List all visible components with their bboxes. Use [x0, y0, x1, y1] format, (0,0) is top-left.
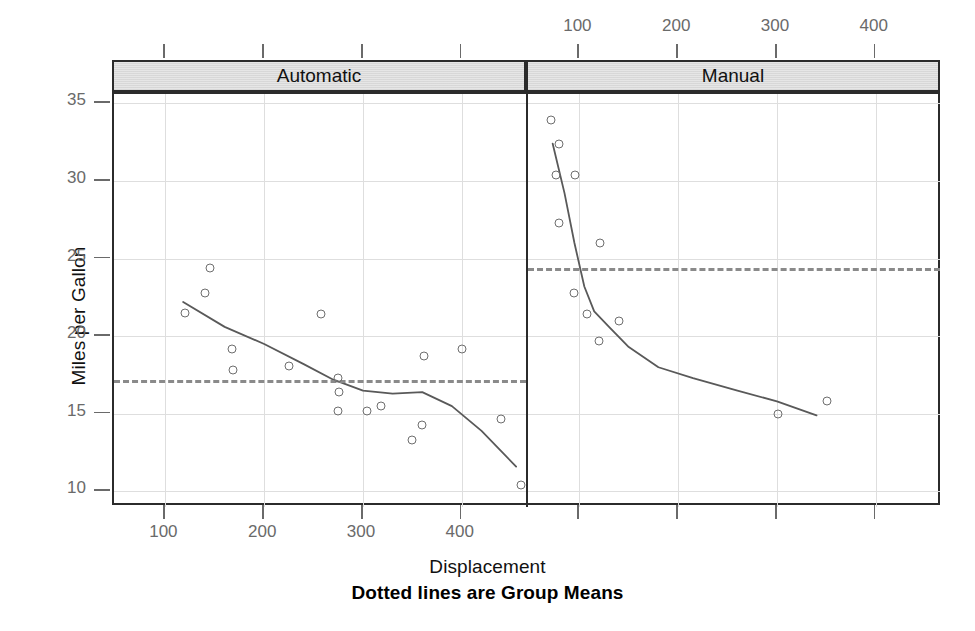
group-mean-line: [114, 380, 526, 383]
x-tick-mark: [775, 44, 777, 58]
x-tick-label: 400: [430, 522, 490, 542]
y-tick-mark: [94, 257, 110, 259]
data-point: [362, 406, 371, 415]
data-point: [571, 170, 580, 179]
x-tick-mark-unlabeled: [163, 44, 165, 58]
data-point: [583, 310, 592, 319]
x-tick-mark: [676, 44, 678, 58]
data-point: [376, 402, 385, 411]
data-point: [546, 116, 555, 125]
y-tick-label: 25: [46, 246, 86, 266]
x-tick-label: 100: [547, 16, 607, 36]
data-point: [773, 409, 782, 418]
panel-strip-automatic: Automatic: [112, 60, 526, 92]
data-point: [418, 420, 427, 429]
loess-smooth-curve: [114, 94, 526, 507]
y-tick-label: 35: [46, 90, 86, 110]
figure-caption: Dotted lines are Group Means: [0, 582, 975, 604]
group-mean-line: [528, 268, 940, 271]
lattice-scatter-figure: Miles per Gallon Displacement Dotted lin…: [0, 0, 975, 631]
data-point: [227, 344, 236, 353]
x-tick-mark-unlabeled: [676, 505, 678, 519]
data-point: [595, 336, 604, 345]
x-tick-mark-unlabeled: [460, 44, 462, 58]
x-tick-mark: [874, 44, 876, 58]
x-tick-label: 300: [745, 16, 805, 36]
x-tick-label: 100: [133, 522, 193, 542]
y-tick-mark: [94, 412, 110, 414]
x-tick-mark-unlabeled: [775, 505, 777, 519]
panel-strip-manual: Manual: [526, 60, 940, 92]
panel-manual: [526, 94, 940, 507]
x-tick-mark: [163, 505, 165, 519]
x-tick-mark-unlabeled: [874, 505, 876, 519]
data-point: [457, 344, 466, 353]
x-tick-label: 200: [232, 522, 292, 542]
data-point: [517, 481, 526, 490]
x-tick-mark: [460, 505, 462, 519]
data-point: [408, 436, 417, 445]
data-point: [420, 352, 429, 361]
x-tick-label: 300: [331, 522, 391, 542]
y-tick-label: 15: [46, 401, 86, 421]
x-tick-mark-unlabeled: [361, 44, 363, 58]
x-tick-label: 400: [844, 16, 904, 36]
panel-strip-manual-label: Manual: [702, 65, 764, 87]
data-point: [317, 310, 326, 319]
x-tick-mark-unlabeled: [262, 44, 264, 58]
x-axis-title: Displacement: [0, 556, 975, 578]
y-tick-mark: [94, 101, 110, 103]
panel-strip-automatic-label: Automatic: [277, 65, 361, 87]
data-point: [614, 316, 623, 325]
x-tick-mark: [577, 44, 579, 58]
y-tick-mark: [94, 179, 110, 181]
x-tick-mark: [361, 505, 363, 519]
y-tick-label: 20: [46, 323, 86, 343]
data-point: [554, 218, 563, 227]
y-tick-mark: [94, 334, 110, 336]
data-point: [284, 361, 293, 370]
data-point: [334, 406, 343, 415]
data-point: [551, 170, 560, 179]
data-point: [554, 139, 563, 148]
data-point: [181, 308, 190, 317]
plot-area: [112, 92, 940, 505]
data-point: [205, 263, 214, 272]
y-axis-title: Miles per Gallon: [68, 246, 90, 385]
y-tick-label: 30: [46, 168, 86, 188]
y-tick-mark: [94, 489, 110, 491]
data-point: [596, 239, 605, 248]
data-point: [497, 414, 506, 423]
data-point: [334, 374, 343, 383]
panel-automatic: [114, 94, 526, 507]
data-point: [823, 397, 832, 406]
loess-smooth-curve: [528, 94, 940, 507]
y-tick-label: 10: [46, 478, 86, 498]
x-tick-label: 200: [646, 16, 706, 36]
data-point: [570, 288, 579, 297]
x-tick-mark: [262, 505, 264, 519]
x-tick-mark-unlabeled: [577, 505, 579, 519]
data-point: [200, 288, 209, 297]
data-point: [228, 366, 237, 375]
data-point: [335, 388, 344, 397]
